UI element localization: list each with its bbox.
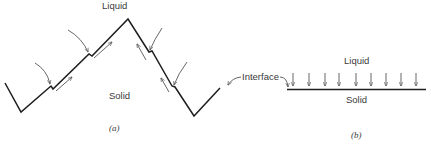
curved-arrow-icon xyxy=(150,28,162,50)
panel-b-caption: (b) xyxy=(351,131,362,140)
interface-pointer-right-icon xyxy=(280,77,288,87)
curved-arrow-icon xyxy=(35,63,50,84)
interface-label: Interface xyxy=(242,72,279,82)
growth-arrows xyxy=(293,73,416,86)
diagram-canvas xyxy=(0,0,431,145)
panel-a-solid-label: Solid xyxy=(109,91,130,101)
panel-a-caption: (a) xyxy=(109,124,120,133)
curved-arrow-icon xyxy=(68,30,88,52)
panel-a xyxy=(5,19,220,116)
interface-pointer-left-icon xyxy=(228,77,241,85)
panel-b-solid-label: Solid xyxy=(346,95,367,105)
panel-a-liquid-label: Liquid xyxy=(102,1,127,11)
curved-arrow-icon xyxy=(174,62,187,85)
panel-b-liquid-label: Liquid xyxy=(344,56,369,66)
crystal-growth-diagram: Liquid Solid (a) Interface Liquid Solid … xyxy=(0,0,431,145)
stepped-interface-line xyxy=(5,19,220,116)
